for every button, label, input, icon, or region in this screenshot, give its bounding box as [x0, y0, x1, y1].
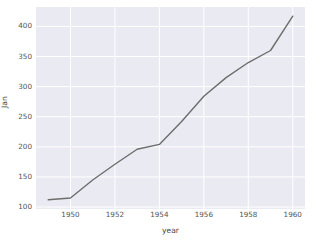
y-tick-label: 150 — [0, 173, 32, 180]
x-tick-label: 1960 — [284, 211, 302, 218]
y-tick-label: 200 — [0, 143, 32, 150]
y-tick-label: 300 — [0, 83, 32, 90]
y-tick-label: 400 — [0, 23, 32, 30]
y-tick-label: 350 — [0, 53, 32, 60]
plot-area — [36, 7, 305, 209]
y-tick-label: 250 — [0, 113, 32, 120]
x-tick-label: 1952 — [106, 211, 124, 218]
x-axis-ticks: 195019521954195619581960 — [36, 211, 305, 225]
chart-figure: 100150200250300350400 195019521954195619… — [0, 0, 313, 246]
x-tick-label: 1954 — [150, 211, 168, 218]
y-tick-label: 100 — [0, 203, 32, 210]
x-tick-label: 1958 — [239, 211, 257, 218]
line-series-jan — [36, 7, 305, 209]
y-axis-ticks: 100150200250300350400 — [0, 7, 32, 209]
x-axis-label: year — [36, 226, 305, 235]
x-tick-label: 1950 — [61, 211, 79, 218]
y-axis-label: Jan — [0, 96, 9, 108]
x-tick-label: 1956 — [195, 211, 213, 218]
